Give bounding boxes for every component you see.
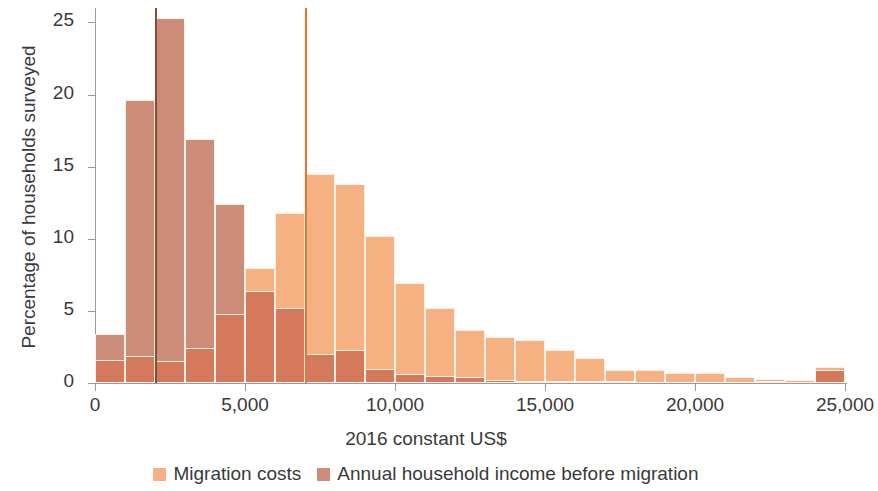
x-tick <box>845 383 846 391</box>
histogram-bar-overlap <box>425 376 455 383</box>
histogram-bar-overlap <box>125 356 155 383</box>
histogram-bar-overlap <box>245 291 275 383</box>
x-tick-label: 0 <box>40 394 150 416</box>
histogram-bar <box>395 283 425 383</box>
legend-swatch-icon <box>153 468 166 481</box>
x-tick <box>545 383 546 391</box>
histogram-bar-overlap <box>335 350 365 383</box>
histogram-bar-overlap <box>605 381 635 383</box>
legend-label: Annual household income before migration <box>337 463 698 485</box>
plot-area <box>95 8 845 383</box>
median-migration-cost-line <box>305 8 307 383</box>
histogram-bar <box>695 373 725 383</box>
histogram-bar-overlap <box>515 381 545 383</box>
x-tick <box>395 383 396 391</box>
y-tick-label: 0 <box>34 370 74 392</box>
y-tick <box>88 167 95 168</box>
x-tick <box>695 383 696 391</box>
histogram-bar-overlap <box>485 380 515 383</box>
x-tick <box>95 383 96 391</box>
y-tick <box>88 22 95 23</box>
histogram-bar-overlap <box>305 354 335 383</box>
legend-swatch-icon <box>317 468 330 481</box>
x-axis-line <box>95 383 847 384</box>
histogram-bar <box>785 380 815 383</box>
histogram-bar-overlap <box>395 374 425 383</box>
histogram-bar-overlap <box>215 314 245 383</box>
y-tick <box>88 95 95 96</box>
histogram-bar <box>545 350 575 383</box>
x-tick-label: 5,000 <box>190 394 300 416</box>
x-tick-label: 25,000 <box>790 394 878 416</box>
y-tick-label: 20 <box>34 82 74 104</box>
histogram-bar <box>305 174 335 383</box>
histogram-bar <box>185 139 215 383</box>
histogram-bar <box>665 373 695 383</box>
y-tick-label: 10 <box>34 226 74 248</box>
y-axis-title: Percentage of households surveyed <box>18 2 40 392</box>
histogram-bar-overlap <box>455 377 485 383</box>
legend-item[interactable]: Annual household income before migration <box>317 463 698 485</box>
histogram-bar <box>155 18 185 383</box>
histogram-bar <box>515 340 545 383</box>
y-tick-label: 15 <box>34 154 74 176</box>
histogram-bar-overlap <box>185 348 215 383</box>
histogram-bar-overlap <box>545 381 575 383</box>
histogram-bar <box>635 370 665 383</box>
x-tick <box>245 383 246 391</box>
histogram-bar-overlap <box>275 308 305 383</box>
histogram-bar <box>125 100 155 383</box>
x-tick-label: 10,000 <box>340 394 450 416</box>
legend-item[interactable]: Migration costs <box>153 463 301 485</box>
median-income-line <box>155 8 157 383</box>
chart-legend: Migration costsAnnual household income b… <box>0 463 852 485</box>
histogram-bar <box>365 236 395 383</box>
x-axis-title: 2016 constant US$ <box>0 428 852 450</box>
histogram-bar <box>575 358 605 383</box>
x-tick-label: 20,000 <box>640 394 750 416</box>
histogram-bar-overlap <box>575 381 605 383</box>
x-tick-label: 15,000 <box>490 394 600 416</box>
histogram-bar <box>485 337 515 383</box>
histogram-bar <box>725 377 755 383</box>
histogram-bar-overlap <box>755 381 785 383</box>
y-tick-label: 5 <box>34 298 74 320</box>
legend-label: Migration costs <box>173 463 301 485</box>
histogram-bar-overlap <box>815 370 845 383</box>
histogram-bar <box>455 330 485 383</box>
y-tick <box>88 311 95 312</box>
histogram-bar-overlap <box>365 369 395 383</box>
y-tick-label: 25 <box>34 9 74 31</box>
histogram-bar <box>425 308 455 383</box>
y-tick <box>88 383 95 384</box>
histogram-bar-overlap <box>155 361 185 383</box>
y-tick <box>88 239 95 240</box>
histogram-bar-overlap <box>95 360 125 383</box>
